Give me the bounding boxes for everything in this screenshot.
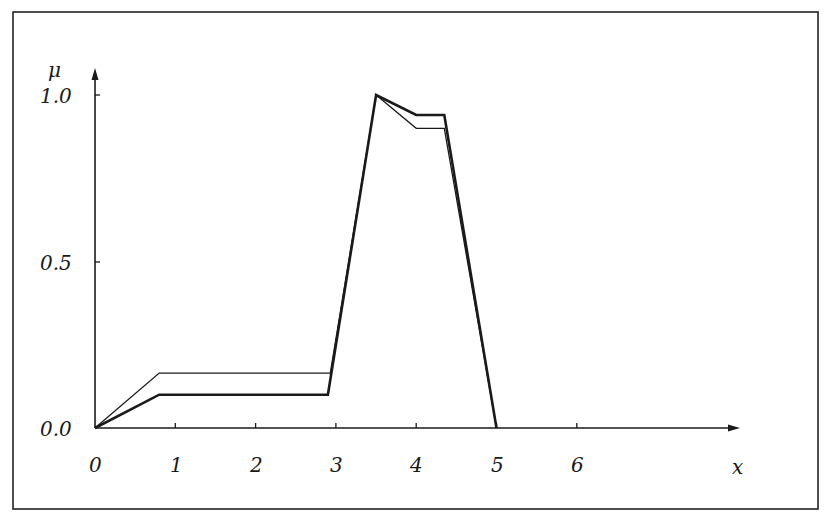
y-tick-label-0: 0.0 — [40, 417, 72, 441]
y-tick-label-1: 1.0 — [40, 84, 72, 108]
x-axis — [95, 423, 740, 432]
y-axis — [92, 68, 101, 428]
y-axis-arrow-icon — [92, 68, 99, 80]
x-tick-label-2: 2 — [249, 453, 263, 477]
x-tick-label-6: 6 — [571, 453, 584, 477]
y-tick-label-05: 0.5 — [40, 251, 72, 275]
chart-canvas: μ 1.0 0.5 0.0 0 1 2 3 4 5 6 x — [0, 0, 829, 523]
x-tick-label-0: 0 — [89, 453, 102, 477]
x-tick-label-5: 5 — [491, 453, 504, 477]
x-tick-label-3: 3 — [330, 453, 343, 477]
x-axis-arrow-icon — [728, 425, 740, 432]
series-thin-line — [95, 95, 497, 428]
x-tick-label-1: 1 — [170, 453, 183, 477]
x-tick-label-4: 4 — [409, 453, 423, 477]
y-axis-label: μ — [48, 58, 61, 82]
x-axis-label: x — [732, 455, 743, 479]
series-thick-line — [95, 95, 497, 428]
chart-frame — [13, 12, 818, 509]
